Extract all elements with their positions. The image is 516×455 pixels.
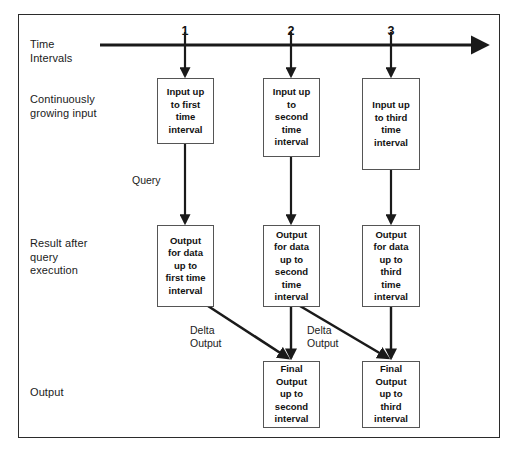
diagram-frame-border — [18, 14, 500, 438]
result-node-3: Output for data up to third time interva… — [362, 225, 420, 307]
edge-label-delta-output-1: Delta Output — [190, 324, 222, 350]
input-node-2: Input up to second time interval — [263, 78, 320, 157]
timeline-tick-2: 2 — [278, 24, 304, 38]
timeline-tick-3: 3 — [378, 24, 404, 38]
row-label-time-intervals: Time Intervals — [30, 38, 72, 65]
edge-label-delta-output-2: Delta Output — [307, 324, 339, 350]
input-node-1: Input up to first time interval — [157, 78, 214, 144]
timeline-tick-1: 1 — [172, 24, 198, 38]
result-node-2: Output for data up to second time interv… — [263, 225, 320, 307]
row-label-output: Output — [30, 386, 64, 400]
result-node-1: Output for data up to first time interva… — [157, 225, 214, 307]
diagram-canvas: Time Intervals Continuously growing inpu… — [0, 0, 516, 455]
row-label-result-after-query-execution: Result after query execution — [30, 237, 87, 278]
input-node-3: Input up to third time interval — [362, 78, 420, 170]
edge-label-query: Query — [132, 174, 161, 187]
final-node-2: Final Output up to second interval — [263, 361, 320, 428]
row-label-continuously-growing-input: Continuously growing input — [30, 93, 97, 120]
final-node-3: Final Output up to third interval — [362, 361, 420, 428]
